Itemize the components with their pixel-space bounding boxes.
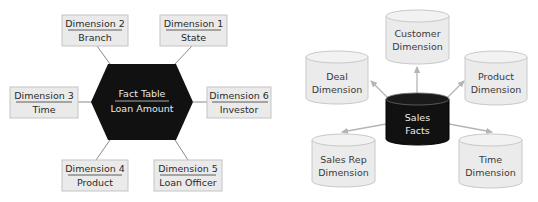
- cylinder-label-line1: Sales Rep: [320, 154, 366, 165]
- cylinder-time-dimension: Time Dimension: [459, 134, 522, 188]
- dimension-box-time: Dimension 3 Time: [10, 87, 78, 118]
- dimension-title: Dimension 4: [65, 163, 125, 174]
- cylinder-label-line1: Product: [478, 71, 514, 82]
- sales-facts-label-line1: Sales: [405, 112, 430, 123]
- sales-facts-label-line2: Facts: [405, 125, 429, 136]
- dimension-subtitle: Investor: [220, 104, 259, 115]
- dimension-title: Dimension 1: [164, 18, 224, 29]
- dimension-box-loan-officer: Dimension 5 Loan Officer: [154, 160, 222, 191]
- dimension-subtitle: State: [181, 32, 206, 43]
- dimension-subtitle: Time: [31, 104, 55, 115]
- connector-dim2: [97, 46, 110, 64]
- left-star-schema: Fact Table Loan Amount Dimension 2 Branc…: [10, 15, 271, 191]
- cylinder-label-line1: Time: [478, 154, 502, 165]
- dimension-subtitle: Loan Officer: [159, 177, 217, 188]
- dimension-subtitle: Branch: [78, 32, 112, 43]
- right-star-schema: Customer Dimension Deal Dimension Produc…: [306, 10, 527, 188]
- cylinder-salesrep-dimension: Sales Rep Dimension: [312, 134, 375, 187]
- arrow-to-time: [449, 124, 492, 132]
- cylinder-label-line2: Dimension: [392, 41, 443, 52]
- cylinder-deal-dimension: Deal Dimension: [306, 51, 368, 104]
- fact-table-subtitle: Loan Amount: [110, 103, 173, 114]
- dimension-title: Dimension 3: [14, 90, 74, 101]
- dimension-title: Dimension 5: [158, 163, 218, 174]
- cylinder-label-line1: Customer: [394, 28, 440, 39]
- dimension-title: Dimension 2: [65, 18, 125, 29]
- star-schema-diagrams: Fact Table Loan Amount Dimension 2 Branc…: [0, 0, 538, 202]
- dimension-box-product: Dimension 4 Product: [62, 160, 128, 191]
- cylinder-label-line2: Dimension: [465, 167, 516, 178]
- fact-table-hexagon: Fact Table Loan Amount: [91, 64, 193, 140]
- cylinder-product-dimension: Product Dimension: [465, 51, 527, 105]
- dimension-subtitle: Product: [77, 177, 113, 188]
- dimension-title: Dimension 6: [209, 90, 269, 101]
- fact-table-title: Fact Table: [119, 88, 166, 99]
- cylinder-customer-dimension: Customer Dimension: [386, 10, 449, 64]
- dimension-box-branch: Dimension 2 Branch: [62, 15, 128, 46]
- cylinder-label-line2: Dimension: [318, 167, 369, 178]
- connector-dim4: [96, 140, 110, 160]
- cylinder-sales-facts: Sales Facts: [386, 93, 449, 145]
- cylinder-label-line2: Dimension: [312, 84, 363, 95]
- cylinder-label-line1: Deal: [326, 71, 348, 82]
- cylinder-label-line2: Dimension: [471, 84, 522, 95]
- dimension-box-state: Dimension 1 State: [160, 15, 227, 46]
- connector-dim1: [175, 46, 192, 64]
- dimension-box-investor: Dimension 6 Investor: [207, 87, 271, 118]
- connector-dim5: [175, 140, 188, 160]
- arrow-to-salesrep: [342, 124, 386, 132]
